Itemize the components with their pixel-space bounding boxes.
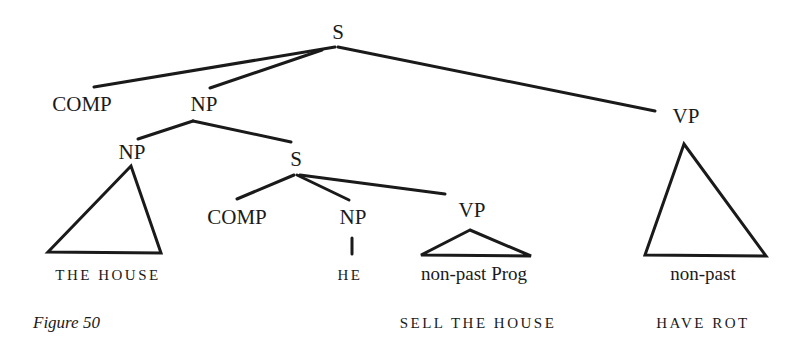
leaf-have-rot: HAVE ROT [656,316,749,331]
edge-s-np [210,50,322,88]
leaf-non-past-prog: non-past Prog [421,264,527,283]
node-s-root: S [332,22,344,43]
node-comp-inner: COMP [207,207,267,228]
tree-edges [0,0,798,364]
leaf-he: HE [338,268,363,283]
edge-s-comp [94,47,335,87]
node-s-inner: S [290,149,302,170]
leaf-the-house: THE HOUSE [55,268,160,283]
edge-np-np [138,121,193,139]
node-np-inner: NP [119,142,146,163]
triangle-the-house [48,166,161,253]
triangle-sell-the-house [421,230,531,256]
triangle-have-rot [645,144,766,256]
edge-s-vp-inner [300,175,445,194]
leaf-non-past: non-past [670,264,735,283]
node-np-top: NP [191,94,218,115]
node-np-he: NP [340,207,367,228]
node-vp-inner: VP [459,200,486,221]
leaf-sell-the-house: SELL THE HOUSE [400,316,557,331]
node-vp-top: VP [673,106,700,127]
edge-s-vp [338,47,655,111]
edge-s-comp-inner [237,175,294,199]
figure-caption: Figure 50 [33,314,100,331]
node-comp-top: COMP [52,94,112,115]
edge-np-s [193,121,291,142]
